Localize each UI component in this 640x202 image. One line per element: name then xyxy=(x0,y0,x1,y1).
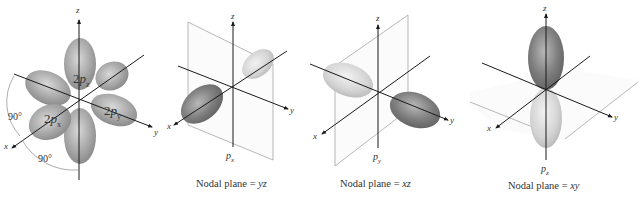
pz-orbital-graphic xyxy=(470,0,640,202)
panel-px-orbital: z y x px Nodal plane = yz xyxy=(160,0,315,202)
orbital-label-py: py xyxy=(373,152,381,165)
z-axis-label: z xyxy=(376,14,380,23)
panel-pz-orbital: z y x pz Nodal plane = xy xyxy=(470,0,640,202)
angle-label-90-bottom: 90° xyxy=(38,154,52,164)
orbital-label-px: px xyxy=(226,151,234,164)
y-axis-label: y xyxy=(154,128,158,137)
orbital-label-2py: 2py xyxy=(104,104,121,121)
orbital-label-2pz: 2pz xyxy=(73,72,90,89)
orbital-label-2px: 2px xyxy=(44,112,61,129)
caption-nodal-plane-yz: Nodal plane = yz xyxy=(196,179,267,190)
z-axis-label: z xyxy=(76,6,80,15)
z-axis-label: z xyxy=(543,4,547,13)
panel-py-orbital: z y x py Nodal plane = xz xyxy=(310,0,470,202)
z-axis-label: z xyxy=(231,12,235,21)
orbital-lobe-py-back xyxy=(91,56,134,96)
angle-arc-90-left xyxy=(7,76,20,136)
x-axis-label: x xyxy=(167,122,171,131)
y-axis-label: y xyxy=(290,106,294,115)
x-axis-label: x xyxy=(313,132,317,141)
angle-label-90-left: 90° xyxy=(8,112,22,122)
py-orbital-graphic xyxy=(310,0,470,202)
y-axis-label: y xyxy=(450,116,454,125)
orbital-label-pz: pz xyxy=(541,164,549,177)
panel-all-2p-orbitals: z y x 2pz 2px 2py 90° 90° xyxy=(0,0,160,202)
combined-orbitals-graphic xyxy=(0,0,160,202)
caption-nodal-plane-xz: Nodal plane = xz xyxy=(340,179,411,190)
caption-nodal-plane-xy: Nodal plane = xy xyxy=(508,181,580,192)
y-axis-label: y xyxy=(614,113,618,122)
px-orbital-graphic xyxy=(160,0,315,202)
x-axis-label: x xyxy=(4,142,8,151)
x-axis-label: x xyxy=(487,124,491,133)
